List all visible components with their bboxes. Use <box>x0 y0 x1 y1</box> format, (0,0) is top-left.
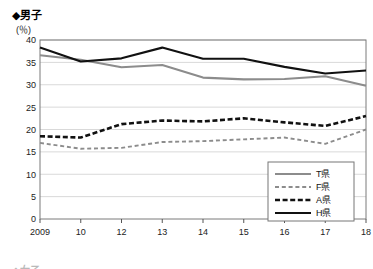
x-axis-tick-label: 12 <box>116 227 126 237</box>
legend-label-H県: H県 <box>316 208 332 218</box>
y-axis-tick-label: 5 <box>31 192 36 202</box>
series-line-F県 <box>40 130 366 149</box>
series-line-H県 <box>40 48 366 74</box>
x-axis-tick-label: 16 <box>279 227 289 237</box>
line-chart-plot: 051015202530354020091012131415161718(年)T… <box>0 0 373 269</box>
y-axis-tick-label: 10 <box>26 170 36 180</box>
legend-label-T県: T県 <box>316 169 331 179</box>
x-axis-tick-label: 10 <box>76 227 86 237</box>
y-axis-tick-label: 25 <box>26 103 36 113</box>
series-line-A県 <box>40 116 366 137</box>
y-axis-tick-label: 30 <box>26 80 36 90</box>
legend-label-F県: F県 <box>316 182 331 192</box>
x-axis-tick-label: 14 <box>198 227 208 237</box>
chart-figure: ◆男子 (％) 05101520253035402009101213141516… <box>0 0 373 269</box>
y-axis-tick-label: 35 <box>26 58 36 68</box>
x-axis-tick-label: 13 <box>157 227 167 237</box>
x-axis-tick-label: 15 <box>239 227 249 237</box>
legend-label-A県: A県 <box>316 195 331 205</box>
y-axis-tick-label: 20 <box>26 125 36 135</box>
x-axis-tick-label: 18 <box>361 227 371 237</box>
y-axis-tick-label: 40 <box>26 35 36 45</box>
next-section-title-cropped: ◆女子 <box>12 262 40 269</box>
x-axis-tick-label: 2009 <box>30 227 50 237</box>
y-axis-tick-label: 15 <box>26 147 36 157</box>
x-axis-tick-label: 17 <box>320 227 330 237</box>
y-axis-tick-label: 0 <box>31 214 36 224</box>
